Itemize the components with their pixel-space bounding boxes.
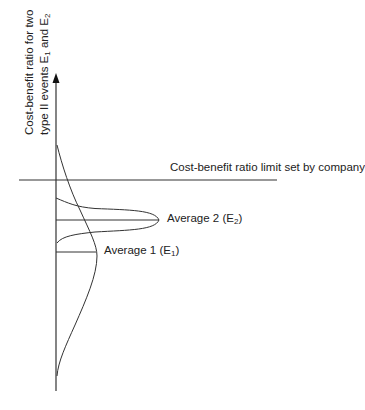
y-label-mid: and E [38,18,50,51]
average-1-suffix: ) [175,244,179,256]
y-axis-label-line1: Cost-benefit ratio for two [22,10,37,135]
average-2-text: Average 2 (E [167,212,234,224]
y-axis-label-line2: type II events E1 and E2 [37,10,55,135]
limit-line-label: Cost-benefit ratio limit set by company [170,161,365,173]
average-1-text: Average 1 (E [104,244,171,256]
y-label-sub2: 2 [43,14,52,18]
y-label-text: type II events E [38,56,50,135]
y-axis-label: Cost-benefit ratio for two type II event… [22,10,55,135]
average-2-suffix: ) [238,212,242,224]
y-label-sub1: 1 [43,51,52,55]
average-1-label: Average 1 (E1) [104,244,179,258]
average-2-label: Average 2 (E2) [167,212,242,226]
